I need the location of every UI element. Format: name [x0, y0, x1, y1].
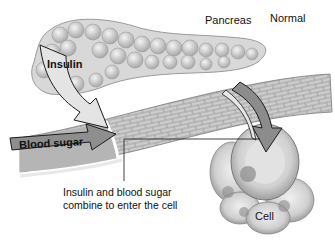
caption-line-1: Insulin and blood sugar [63, 186, 233, 199]
label-normal: Normal [270, 12, 305, 24]
label-pancreas: Pancreas [205, 14, 251, 26]
caption-line-2: combine to enter the cell [63, 199, 233, 212]
label-insulin: Insulin [47, 58, 82, 70]
diagram-canvas: Pancreas Normal Insulin Blood sugar Insu… [0, 0, 335, 242]
caption: Insulin and blood sugar combine to enter… [63, 186, 233, 212]
label-cell: Cell [255, 210, 274, 222]
